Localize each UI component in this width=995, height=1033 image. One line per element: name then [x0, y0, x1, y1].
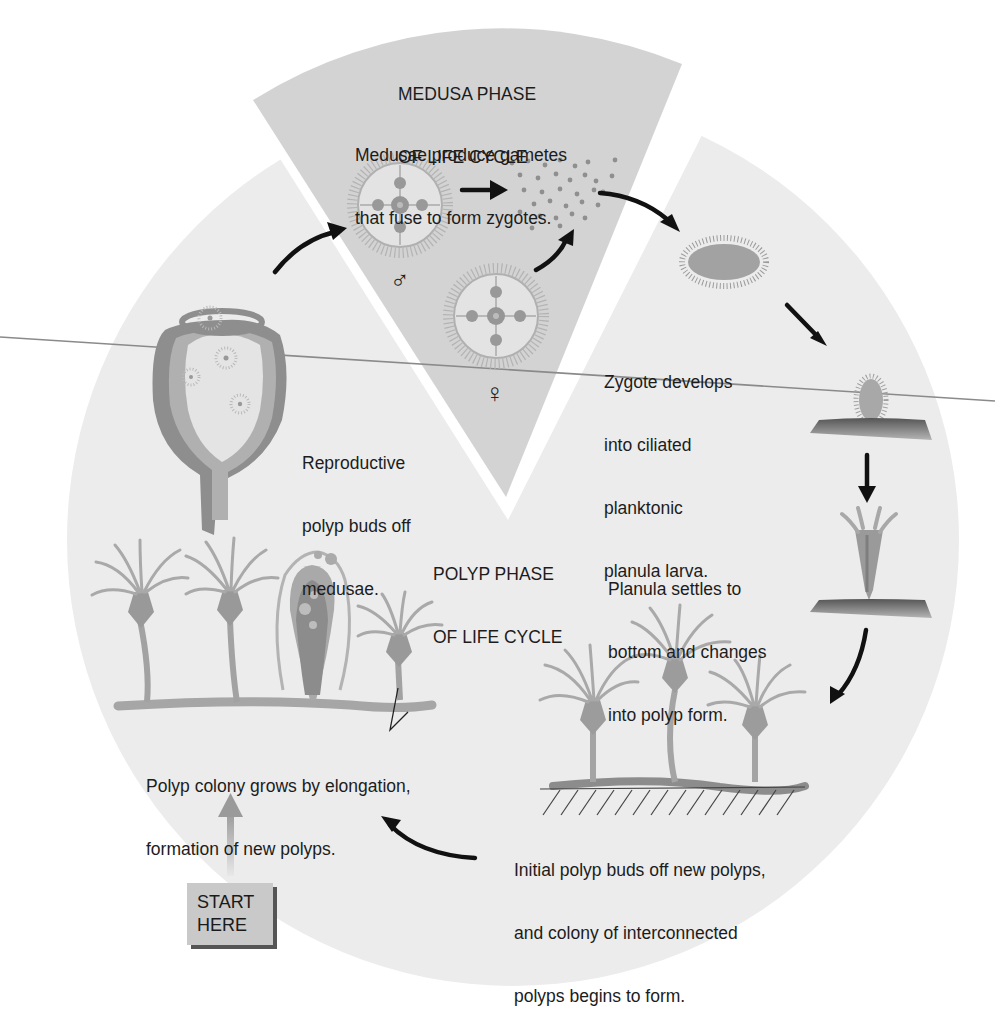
- caption-initial-polyp: Initial polyp buds off new polyps, and c…: [514, 818, 766, 1028]
- polyp-phase-title: POLYP PHASE OF LIFE CYCLE: [433, 522, 562, 669]
- start-here-box: START HERE: [187, 883, 273, 945]
- caption-settles: Planula settles to bottom and changes in…: [608, 537, 767, 747]
- male-symbol: ♂: [390, 267, 410, 293]
- caption-gametes: Medusae produce gametes that fuse to for…: [355, 103, 567, 250]
- female-symbol: ♀: [485, 380, 505, 406]
- caption-reproductive-polyp: Reproductive polyp buds off medusae.: [302, 411, 411, 621]
- caption-colony-grows: Polyp colony grows by elongation, format…: [146, 734, 411, 881]
